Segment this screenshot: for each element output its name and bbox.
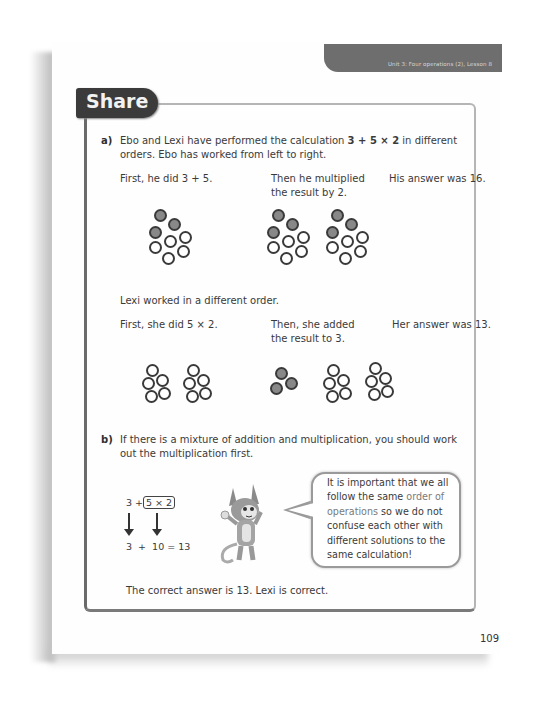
lexi-intro: Lexi worked in a different order.: [120, 294, 279, 308]
counter: [297, 231, 310, 244]
speech-highlight: operations: [327, 506, 378, 517]
counter: [142, 377, 155, 390]
counter-filled: [331, 209, 344, 222]
counter: [145, 390, 158, 403]
counter-filled: [267, 226, 280, 239]
calc-top: 3 +5 × 2: [126, 496, 175, 510]
part-b-line1: If there is a mixture of addition and mu…: [120, 433, 457, 447]
counter: [162, 252, 175, 265]
part-a-label: a): [101, 134, 112, 148]
counter-filled: [326, 226, 339, 239]
conclusion-text: The correct answer is 13. Lexi is correc…: [126, 584, 328, 598]
counter: [295, 245, 308, 258]
counter: [379, 372, 392, 385]
speech-bubble-tail-inner: [288, 503, 314, 517]
arrow-down-icon: [128, 513, 130, 534]
speech-bubble-text: It is important that we all follow the s…: [327, 476, 457, 562]
lexi-step2-line1: Then, she added: [271, 318, 355, 332]
page-number: 109: [480, 633, 499, 644]
counter: [156, 374, 169, 387]
counter: [186, 390, 199, 403]
counter: [149, 241, 162, 254]
part-a-intro-line1: Ebo and Lexi have performed the calculat…: [120, 134, 457, 148]
counter: [197, 374, 210, 387]
counter-filled: [272, 209, 285, 222]
counter: [341, 235, 354, 248]
counter: [323, 377, 336, 390]
part-b-label: b): [101, 433, 113, 447]
counter: [354, 245, 367, 258]
arrow-down-icon: [156, 513, 158, 534]
counter: [177, 245, 190, 258]
lexi-step1: First, she did 5 × 2.: [120, 318, 218, 332]
counter: [339, 387, 352, 400]
counter: [337, 374, 350, 387]
counter: [183, 377, 196, 390]
calc-bottom: 3 + 10 = 13: [126, 540, 190, 554]
counter-filled: [345, 218, 358, 231]
share-section-tab: Share: [76, 88, 158, 118]
counter: [368, 388, 381, 401]
counter-filled: [168, 218, 181, 231]
speech-highlight: order of: [406, 491, 444, 502]
counter: [179, 231, 192, 244]
counter: [339, 252, 352, 265]
part-a-intro-line2: orders. Ebo has worked from left to righ…: [120, 148, 326, 162]
counter: [326, 241, 339, 254]
lexi-step2-line2: the result to 3.: [271, 332, 345, 346]
counter: [381, 385, 394, 398]
ebo-step2-line1: Then he multiplied: [271, 172, 365, 186]
counter: [267, 241, 280, 254]
unit-header-tab: Unit 3: Four operations (2), Lesson 8: [324, 44, 502, 72]
counter: [282, 235, 295, 248]
counter-filled: [149, 226, 162, 239]
lexi-answer: Her answer was 13.: [392, 318, 491, 332]
part-b-line2: out the multiplication first.: [120, 447, 253, 461]
section-title: Share: [86, 90, 148, 112]
ebo-step1: First, he did 3 + 5.: [120, 172, 212, 186]
ebo-answer: His answer was 16.: [389, 172, 486, 186]
ebo-step2-line2: the result by 2.: [271, 186, 347, 200]
counter-filled: [154, 209, 167, 222]
counter: [280, 252, 293, 265]
counter: [326, 390, 339, 403]
cat-character-icon: [215, 482, 275, 567]
counter: [158, 387, 171, 400]
intro-expression: 3 + 5 × 2: [348, 135, 400, 146]
intro-text: Ebo and Lexi have performed the calculat…: [120, 135, 348, 146]
intro-text-post: in different: [399, 135, 457, 146]
unit-label: Unit 3: Four operations (2), Lesson 8: [388, 61, 492, 67]
calc-boxed-expression: 5 × 2: [143, 496, 175, 509]
counter: [356, 231, 369, 244]
counter-filled: [270, 382, 283, 395]
counter-filled: [285, 377, 298, 390]
counter: [365, 375, 378, 388]
calc-top-left: 3 +: [126, 497, 143, 508]
counter: [164, 235, 177, 248]
counter-filled: [286, 218, 299, 231]
counter: [199, 387, 212, 400]
